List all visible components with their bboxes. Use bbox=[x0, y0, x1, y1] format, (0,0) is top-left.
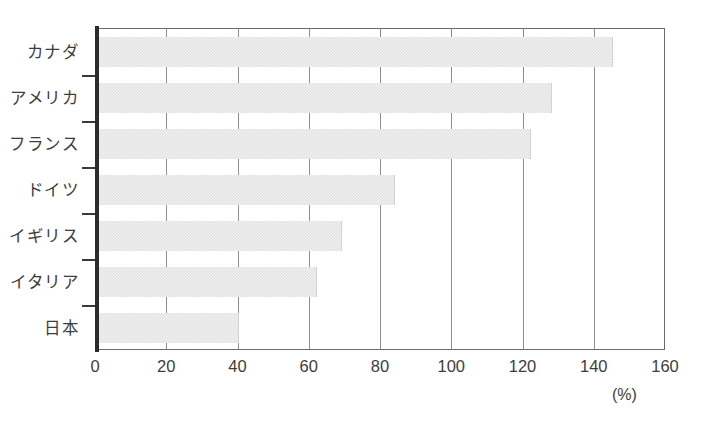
y-axis-label: イタリア bbox=[0, 258, 88, 304]
bar bbox=[95, 129, 531, 159]
x-axis-tick-label: 20 bbox=[157, 357, 175, 376]
plot-area bbox=[95, 28, 665, 350]
y-axis-label: イギリス bbox=[0, 212, 88, 258]
y-axis-label: アメリカ bbox=[0, 74, 88, 120]
y-axis-spine bbox=[95, 26, 99, 352]
bar bbox=[95, 37, 613, 67]
bar bbox=[95, 313, 239, 343]
x-axis-tick-label: 40 bbox=[228, 357, 246, 376]
y-axis-label: フランス bbox=[0, 120, 88, 166]
y-axis-label: ドイツ bbox=[0, 166, 88, 212]
bar-row bbox=[95, 267, 664, 297]
bar-row bbox=[95, 129, 664, 159]
y-axis-tick bbox=[82, 121, 95, 123]
y-axis-tick bbox=[82, 213, 95, 215]
y-axis-label: カナダ bbox=[0, 28, 88, 74]
x-axis-tick-label: 120 bbox=[509, 357, 537, 376]
bar-row bbox=[95, 83, 664, 113]
bar-row bbox=[95, 313, 664, 343]
bar-row bbox=[95, 37, 664, 67]
bar-row bbox=[95, 175, 664, 205]
bar-chart: カナダアメリカフランスドイツイギリスイタリア日本 020406080100120… bbox=[0, 0, 702, 436]
bar-row bbox=[95, 221, 664, 251]
x-axis-tick-labels: 020406080100120140160 bbox=[95, 357, 665, 383]
unit-label: (%) bbox=[612, 386, 637, 404]
y-axis-tick bbox=[82, 167, 95, 169]
y-axis-label: 日本 bbox=[0, 304, 88, 350]
x-axis-tick-label: 80 bbox=[371, 357, 389, 376]
y-axis-tick bbox=[82, 305, 95, 307]
y-axis-tick bbox=[82, 75, 95, 77]
y-axis-category-labels: カナダアメリカフランスドイツイギリスイタリア日本 bbox=[0, 28, 88, 350]
x-axis-tick-label: 160 bbox=[651, 357, 679, 376]
x-axis-tick-label: 140 bbox=[580, 357, 608, 376]
bar bbox=[95, 83, 552, 113]
bar bbox=[95, 221, 342, 251]
x-axis-tick-label: 0 bbox=[90, 357, 99, 376]
x-axis-tick-label: 60 bbox=[300, 357, 318, 376]
x-axis-tick-label: 100 bbox=[437, 357, 465, 376]
bar bbox=[95, 175, 395, 205]
bar bbox=[95, 267, 317, 297]
y-axis-tick bbox=[82, 259, 95, 261]
bar-series bbox=[95, 29, 664, 349]
